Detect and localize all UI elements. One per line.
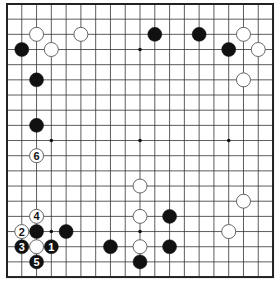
black-stone-move-5: 5 xyxy=(30,255,44,269)
move-number-label: 5 xyxy=(33,256,39,268)
stone-circle xyxy=(236,73,250,87)
stone-circle xyxy=(251,43,265,57)
black-stone xyxy=(15,43,29,57)
stone-circle xyxy=(236,194,250,208)
white-stone xyxy=(30,27,44,41)
white-stone xyxy=(30,240,44,254)
stone-circle xyxy=(236,27,250,41)
stone-circle xyxy=(192,27,206,41)
move-number-label: 3 xyxy=(19,241,25,253)
white-stone xyxy=(251,43,265,57)
star-point xyxy=(138,139,142,143)
stone-circle xyxy=(103,240,117,254)
stone-circle xyxy=(59,225,73,239)
stone-circle xyxy=(30,118,44,132)
move-number-label: 4 xyxy=(33,210,40,222)
white-stone xyxy=(44,43,58,57)
black-stone-move-1: 1 xyxy=(44,240,58,254)
star-point xyxy=(50,139,54,143)
stone-circle xyxy=(30,225,44,239)
black-stone xyxy=(222,43,236,57)
white-stone-move-2: 2 xyxy=(15,225,29,239)
star-point xyxy=(138,230,142,234)
white-stone xyxy=(236,73,250,87)
move-number-label: 2 xyxy=(19,226,25,238)
go-board: 642315 xyxy=(0,0,279,289)
stone-circle xyxy=(30,73,44,87)
black-stone xyxy=(163,209,177,223)
white-stone xyxy=(133,179,147,193)
black-stone xyxy=(59,225,73,239)
star-point xyxy=(50,230,54,234)
stone-circle xyxy=(133,209,147,223)
white-stone-move-4: 4 xyxy=(30,209,44,223)
white-stone xyxy=(74,27,88,41)
stone-circle xyxy=(163,209,177,223)
white-stone xyxy=(133,240,147,254)
black-stone xyxy=(133,255,147,269)
stone-circle xyxy=(133,255,147,269)
stone-circle xyxy=(74,27,88,41)
white-stone xyxy=(222,225,236,239)
black-stone xyxy=(192,27,206,41)
black-stone xyxy=(30,118,44,132)
stone-circle xyxy=(133,240,147,254)
star-point xyxy=(138,48,142,52)
stone-circle xyxy=(148,27,162,41)
white-stone-move-6: 6 xyxy=(30,149,44,163)
stone-circle xyxy=(30,240,44,254)
stone-circle xyxy=(222,43,236,57)
stone-circle xyxy=(222,225,236,239)
white-stone xyxy=(236,194,250,208)
white-stone xyxy=(236,27,250,41)
black-stone-move-3: 3 xyxy=(15,240,29,254)
stone-circle xyxy=(163,240,177,254)
white-stone xyxy=(133,209,147,223)
star-point xyxy=(227,139,231,143)
black-stone xyxy=(163,240,177,254)
stone-circle xyxy=(44,43,58,57)
black-stone xyxy=(30,225,44,239)
black-stone xyxy=(148,27,162,41)
stone-circle xyxy=(133,179,147,193)
black-stone xyxy=(30,73,44,87)
move-number-label: 6 xyxy=(33,150,39,162)
move-number-label: 1 xyxy=(48,241,54,253)
black-stone xyxy=(103,240,117,254)
stone-circle xyxy=(30,27,44,41)
stone-circle xyxy=(15,43,29,57)
